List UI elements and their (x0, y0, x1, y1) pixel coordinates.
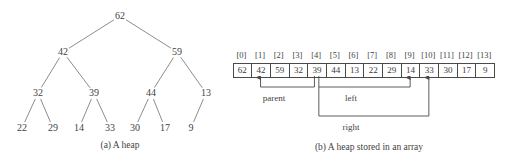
annotation-label-right: right (343, 122, 360, 132)
tree-edge (153, 99, 162, 122)
array-index-0: [0] (232, 50, 251, 60)
tree-node-11: 30 (129, 123, 141, 133)
annotation-label-parent: parent (263, 93, 286, 103)
array-index-10: [10] (419, 50, 438, 60)
annotation-label-left: left (345, 93, 357, 103)
tree-edge (41, 58, 59, 88)
parent-arrow (261, 76, 315, 87)
panel-b-caption: (b) A heap stored in an array (315, 142, 423, 152)
panel-a-caption: (a) A heap (100, 140, 139, 150)
array-index-7: [7] (363, 50, 382, 60)
heap-array-panel: [0][1][2][3][4][5][6][7][8][9][10][11][1… (232, 0, 505, 162)
tree-edge (25, 99, 36, 122)
tree-edge (154, 57, 173, 87)
heap-tree-panel: 624259323944132229143330179 (a) A heap (0, 0, 232, 162)
array-index-6: [6] (344, 50, 363, 60)
array-index-row: [0][1][2][3][4][5][6][7][8][9][10][11][1… (232, 50, 494, 60)
array-index-8: [8] (382, 50, 401, 60)
tree-node-10: 33 (104, 123, 116, 133)
tree-node-2: 59 (171, 47, 183, 57)
tree-edge (41, 99, 51, 122)
tree-node-8: 29 (47, 123, 59, 133)
right-arrow (319, 78, 429, 117)
tree-node-9: 14 (73, 123, 85, 133)
array-annotation-arrows (232, 76, 505, 136)
tree-node-5: 44 (145, 88, 157, 98)
tree-node-7: 22 (16, 123, 28, 133)
tree-edges (0, 0, 232, 162)
tree-edge (194, 99, 204, 122)
left-arrow (319, 76, 410, 87)
tree-node-6: 13 (200, 88, 212, 98)
tree-node-3: 32 (32, 88, 44, 98)
array-index-9: [9] (400, 50, 419, 60)
tree-edge (82, 99, 92, 122)
tree-edge (181, 57, 203, 87)
tree-edge (138, 99, 149, 122)
array-index-11: [11] (438, 50, 457, 60)
tree-node-4: 39 (88, 88, 100, 98)
tree-edge (126, 19, 172, 48)
tree-edge (67, 57, 90, 88)
array-index-3: [3] (288, 50, 307, 60)
tree-edge (69, 19, 115, 48)
tree-edge (97, 99, 108, 122)
array-index-2: [2] (269, 50, 288, 60)
array-index-13: [13] (475, 50, 494, 60)
tree-node-1: 42 (57, 47, 69, 57)
array-index-1: [1] (251, 50, 270, 60)
array-index-4: [4] (307, 50, 326, 60)
array-index-5: [5] (325, 50, 344, 60)
tree-node-12: 17 (159, 123, 171, 133)
tree-node-0: 62 (114, 11, 126, 21)
heap-figure: 624259323944132229143330179 (a) A heap [… (0, 0, 505, 162)
array-index-12: [12] (456, 50, 475, 60)
tree-node-13: 9 (188, 123, 195, 133)
